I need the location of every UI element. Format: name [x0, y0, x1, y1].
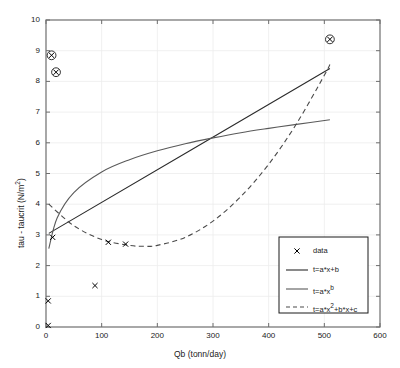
y-tick-label: 0 — [18, 322, 40, 331]
x-tick-label: 300 — [193, 331, 233, 340]
y-tick-label: 7 — [18, 107, 40, 116]
legend-item-label[interactable]: data — [313, 246, 328, 255]
x-tick-label: 600 — [360, 331, 400, 340]
x-tick-label: 500 — [304, 331, 344, 340]
y-axis-label-text: tau - taucrit (N/m2) — [16, 178, 26, 248]
y-axis-label: tau - taucrit (N/m2) — [14, 178, 26, 248]
y-tick-label: 5 — [18, 169, 40, 178]
y-tick-label: 1 — [18, 291, 40, 300]
x-tick-label: 200 — [137, 331, 177, 340]
x-axis-label: Qb (tonn/day) — [0, 349, 400, 359]
x-tick-label: 100 — [82, 331, 122, 340]
y-tick-label: 6 — [18, 138, 40, 147]
y-tick-label: 8 — [18, 76, 40, 85]
legend-item-label[interactable]: t=a*x2+b*x+c — [313, 302, 357, 314]
x-tick-label: 0 — [26, 331, 66, 340]
y-tick-label: 2 — [18, 261, 40, 270]
legend-item-label[interactable]: t=a*xb — [313, 284, 334, 296]
y-tick-label: 9 — [18, 46, 40, 55]
x-tick-label: 400 — [249, 331, 289, 340]
chart-figure: 0100200300400500600 012345678910 Qb (ton… — [0, 0, 400, 368]
y-tick-label: 10 — [18, 15, 40, 24]
legend-item-label[interactable]: t=a*x+b — [313, 265, 339, 274]
